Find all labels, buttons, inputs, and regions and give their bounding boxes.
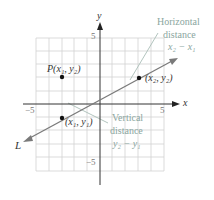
vertical-distance-label-2: distance — [110, 126, 143, 136]
tick-neg-x: −5 — [25, 106, 35, 115]
tick-neg-y: −5 — [86, 158, 96, 167]
y-axis-label: y — [97, 11, 101, 21]
point-p1-label: (x₁, y₁) — [65, 117, 93, 127]
tick-pos-y: 5 — [91, 32, 96, 41]
x-axis-arrow-icon — [172, 101, 180, 107]
line-l-arrow-start-icon — [23, 135, 33, 142]
point-p-corner-label: P(x₁, y₂) — [47, 64, 81, 74]
tick-pos-x: 5 — [160, 106, 165, 115]
point-p1 — [60, 116, 64, 120]
horizontal-distance-label-1: Horizontal — [157, 17, 200, 27]
point-p2 — [137, 76, 141, 80]
point-p-corner — [60, 75, 64, 79]
vertical-distance-expr: y₂ − y₁ — [113, 139, 141, 149]
line-l-arrow-end-icon — [169, 58, 178, 65]
y-axis-arrow-icon — [97, 22, 103, 30]
vertical-distance-label-1: Vertical — [112, 113, 143, 123]
point-p2-label: (x₂, y₂) — [145, 73, 173, 83]
line-label: L — [15, 140, 21, 151]
horizontal-distance-expr: x₂ − x₁ — [168, 42, 196, 52]
horizontal-distance-label-2: distance — [163, 30, 196, 40]
x-axis-label: x — [183, 98, 187, 108]
